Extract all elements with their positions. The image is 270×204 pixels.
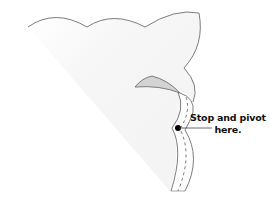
facing-strip-right-edge [180,93,194,191]
fabric-body [28,12,200,191]
callout-line-2: here. [190,124,266,136]
scallop-sewing-diagram [0,0,270,204]
callout-line-1: Stop and pivot [190,112,266,124]
pivot-callout-label: Stop and pivot here. [190,112,266,136]
